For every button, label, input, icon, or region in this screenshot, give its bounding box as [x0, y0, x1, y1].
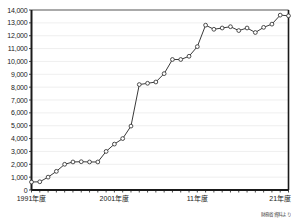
- data-point-marker: [237, 29, 241, 33]
- data-point-marker: [154, 80, 158, 84]
- y-axis-tick-label: 11,000: [8, 45, 28, 52]
- data-point-marker: [121, 137, 125, 141]
- data-point-marker: [270, 22, 274, 26]
- data-point-marker: [278, 13, 282, 17]
- data-point-marker: [220, 26, 224, 30]
- data-point-markers: [30, 13, 291, 184]
- data-series-line: [32, 15, 289, 182]
- data-point-marker: [212, 27, 216, 31]
- data-point-marker: [113, 142, 117, 146]
- source-note: 財務省資料より: [261, 211, 291, 217]
- y-axis-tick-label: 0: [24, 187, 28, 194]
- data-point-marker: [204, 23, 208, 27]
- y-axis-tick-label: 3,000: [11, 148, 28, 155]
- data-point-marker: [30, 180, 34, 184]
- y-axis-tick-label: 10,000: [7, 58, 27, 65]
- data-point-marker: [79, 160, 83, 164]
- data-point-marker: [171, 58, 175, 62]
- data-point-marker: [104, 150, 108, 154]
- data-point-marker: [63, 162, 67, 166]
- y-axis-tick-label: 6,000: [11, 109, 28, 116]
- x-axis-tick-label: 1991年度: [2, 195, 62, 203]
- gridlines: [32, 10, 289, 177]
- data-point-marker: [46, 175, 50, 179]
- data-point-marker: [287, 14, 291, 18]
- y-axis-tick-label: 2,000: [11, 161, 28, 168]
- y-axis-tick-label: 7,000: [11, 97, 28, 104]
- data-point-marker: [195, 45, 199, 49]
- data-point-marker: [179, 58, 183, 62]
- data-point-marker: [229, 25, 233, 29]
- line-chart-plot: [0, 0, 294, 218]
- data-point-marker: [137, 83, 141, 87]
- x-axis-tick-label: 21年度: [250, 195, 294, 203]
- y-axis-tick-label: 14,000: [7, 7, 27, 14]
- data-point-marker: [54, 169, 58, 173]
- y-axis-tick-label: 13,000: [7, 19, 27, 26]
- x-axis-tick-label: 2001年度: [84, 195, 144, 203]
- data-point-marker: [96, 160, 100, 164]
- data-point-marker: [88, 160, 92, 164]
- chart-container: 01,0002,0003,0004,0005,0006,0007,0008,00…: [0, 0, 294, 218]
- data-point-marker: [162, 72, 166, 76]
- data-point-marker: [146, 81, 150, 85]
- x-axis-tick-label: 11年度: [167, 195, 227, 203]
- data-point-marker: [71, 160, 75, 164]
- y-axis-tick-label: 1,000: [11, 174, 28, 181]
- data-point-marker: [245, 26, 249, 30]
- y-axis-tick-label: 4,000: [11, 135, 28, 142]
- data-point-marker: [129, 124, 133, 128]
- data-point-marker: [38, 180, 42, 184]
- y-axis-tick-label: 9,000: [11, 71, 28, 78]
- data-point-marker: [187, 54, 191, 58]
- data-point-marker: [253, 31, 257, 35]
- y-axis-tick-label: 5,000: [11, 122, 28, 129]
- y-axis-tick-label: 8,000: [11, 84, 28, 91]
- data-point-marker: [262, 25, 266, 29]
- y-axis-tick-label: 12,000: [7, 32, 27, 39]
